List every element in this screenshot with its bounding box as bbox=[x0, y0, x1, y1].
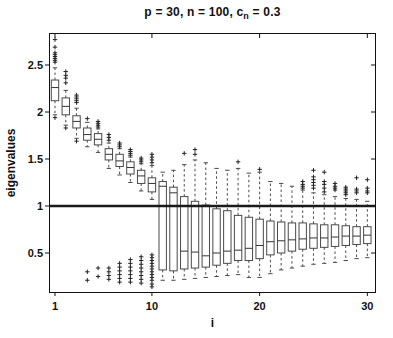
box bbox=[202, 205, 209, 267]
outlier-plus-marker bbox=[236, 160, 240, 164]
outlier-plus-marker bbox=[64, 73, 68, 77]
outlier-plus-marker bbox=[128, 276, 132, 280]
outlier-plus-marker bbox=[85, 270, 89, 274]
boxplot-7 bbox=[116, 141, 123, 285]
outlier-plus-marker bbox=[150, 285, 154, 289]
boxplot-22 bbox=[277, 183, 284, 269]
outlier-plus-marker bbox=[311, 168, 315, 172]
plot-area bbox=[49, 33, 376, 293]
boxplot-4 bbox=[84, 116, 91, 282]
boxplot-17 bbox=[224, 170, 231, 275]
outlier-plus-marker bbox=[193, 147, 197, 151]
boxplot-1 bbox=[51, 37, 58, 119]
box bbox=[137, 170, 144, 183]
boxplot-15 bbox=[202, 163, 209, 278]
boxplot-19 bbox=[245, 173, 252, 277]
outlier-plus-marker bbox=[117, 280, 121, 284]
outlier-plus-marker bbox=[150, 152, 154, 156]
outlier-plus-marker bbox=[117, 276, 121, 280]
outlier-plus-marker bbox=[193, 152, 197, 156]
y-tick-label: 2 bbox=[9, 105, 43, 119]
outlier-plus-marker bbox=[85, 116, 89, 120]
outlier-plus-marker bbox=[128, 265, 132, 269]
outlier-plus-marker bbox=[74, 139, 78, 143]
outlier-plus-marker bbox=[117, 261, 121, 265]
outlier-plus-marker bbox=[139, 262, 143, 266]
box bbox=[148, 178, 155, 192]
boxplot-9 bbox=[137, 156, 144, 285]
outlier-plus-marker bbox=[139, 270, 143, 274]
boxplot-16 bbox=[213, 168, 220, 276]
outlier-plus-marker bbox=[139, 273, 143, 277]
outlier-plus-marker bbox=[128, 257, 132, 261]
boxplot-24 bbox=[299, 179, 306, 266]
chart-title-prefix: p = 30, n = 100, c bbox=[144, 5, 243, 19]
boxplot-28 bbox=[342, 185, 349, 261]
box bbox=[267, 221, 274, 255]
outlier-plus-marker bbox=[107, 273, 111, 277]
box bbox=[224, 211, 231, 264]
boxplot-23 bbox=[288, 186, 295, 268]
figure: p = 30, n = 100, cn = 0.3 eigenvalues 0.… bbox=[0, 0, 393, 338]
boxplot-11 bbox=[159, 172, 166, 280]
outlier-plus-marker bbox=[139, 277, 143, 281]
boxplot-3 bbox=[73, 93, 80, 143]
outlier-plus-marker bbox=[117, 272, 121, 276]
boxplot-27 bbox=[331, 181, 338, 262]
outlier-plus-marker bbox=[107, 277, 111, 281]
box bbox=[277, 222, 284, 253]
outlier-plus-marker bbox=[107, 270, 111, 274]
outlier-plus-marker bbox=[333, 181, 337, 185]
x-tick-label: 20 bbox=[243, 299, 277, 313]
outlier-plus-marker bbox=[322, 170, 326, 174]
x-tick-label: 30 bbox=[350, 299, 384, 313]
boxplot-25 bbox=[310, 168, 317, 264]
outlier-plus-marker bbox=[128, 269, 132, 273]
outlier-plus-marker bbox=[365, 186, 369, 190]
outlier-plus-marker bbox=[322, 179, 326, 183]
box bbox=[288, 223, 295, 251]
outlier-plus-marker bbox=[139, 255, 143, 259]
boxplot-13 bbox=[181, 151, 188, 279]
outlier-plus-marker bbox=[139, 258, 143, 262]
outlier-plus-marker bbox=[311, 175, 315, 179]
box bbox=[181, 197, 188, 269]
outlier-plus-marker bbox=[107, 266, 111, 270]
outlier-plus-marker bbox=[64, 69, 68, 73]
boxplot-14 bbox=[191, 147, 198, 278]
boxplot-21 bbox=[267, 182, 274, 274]
box bbox=[299, 223, 306, 249]
outlier-plus-marker bbox=[150, 278, 154, 282]
box bbox=[310, 224, 317, 248]
boxplot-2 bbox=[62, 69, 69, 130]
boxplot-8 bbox=[127, 147, 134, 284]
boxplot-5 bbox=[94, 119, 101, 279]
outlier-plus-marker bbox=[301, 179, 305, 183]
box bbox=[256, 219, 263, 258]
outlier-plus-marker bbox=[64, 81, 68, 85]
outlier-plus-marker bbox=[96, 266, 100, 270]
x-tick-label: 1 bbox=[38, 299, 72, 313]
boxplot-30 bbox=[364, 177, 371, 257]
box bbox=[159, 182, 166, 270]
outlier-plus-marker bbox=[322, 190, 326, 194]
boxplot-12 bbox=[170, 170, 177, 280]
chart-title-suffix: = 0.3 bbox=[249, 5, 281, 19]
box bbox=[245, 217, 252, 260]
outlier-plus-marker bbox=[117, 265, 121, 269]
outlier-plus-marker bbox=[53, 115, 57, 119]
x-axis-label: i bbox=[49, 316, 376, 330]
x-tick-label: 10 bbox=[135, 299, 169, 313]
y-tick-label: 0.5 bbox=[9, 246, 43, 260]
box bbox=[321, 225, 328, 248]
outlier-plus-marker bbox=[64, 126, 68, 130]
outlier-plus-marker bbox=[117, 269, 121, 273]
boxplot-18 bbox=[234, 160, 241, 275]
box bbox=[213, 209, 220, 265]
outlier-plus-marker bbox=[107, 132, 111, 136]
box bbox=[51, 80, 58, 101]
outlier-plus-marker bbox=[365, 177, 369, 181]
y-tick-label: 2.5 bbox=[9, 58, 43, 72]
y-tick-label: 1 bbox=[9, 199, 43, 213]
box bbox=[191, 201, 198, 268]
